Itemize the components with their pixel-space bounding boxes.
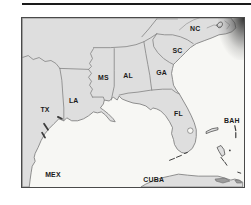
map-label-ms: MS — [98, 74, 109, 81]
map-label-nc: NC — [190, 25, 200, 32]
top-rule-line — [22, 3, 251, 5]
map-label-la: LA — [69, 97, 79, 104]
map-label-ga: GA — [156, 69, 167, 76]
southeast-us-map: TXLAMSALGASCNCFLBAHMEXCUBA — [22, 18, 244, 187]
grand-bahama-island — [206, 128, 218, 134]
map-frame: TXLAMSALGASCNCFLBAHMEXCUBA — [21, 17, 245, 188]
map-label-sc: SC — [172, 47, 182, 54]
map-label-al: AL — [123, 72, 133, 79]
map-label-fl: FL — [174, 110, 183, 117]
map-label-cuba: CUBA — [143, 176, 164, 183]
florida-keys — [170, 152, 188, 160]
abaco-islands — [235, 126, 236, 138]
lake-okeechobee — [188, 128, 194, 134]
scanned-map-figure: TXLAMSALGASCNCFLBAHMEXCUBA — [0, 0, 251, 205]
map-label-mex: MEX — [45, 171, 61, 178]
map-label-tx: TX — [40, 106, 49, 113]
andros-island — [217, 145, 225, 156]
map-label-bah: BAH — [224, 117, 240, 124]
bahama-cays — [221, 157, 241, 173]
bahama-dot — [229, 150, 231, 152]
mainland-landmass — [22, 18, 235, 187]
